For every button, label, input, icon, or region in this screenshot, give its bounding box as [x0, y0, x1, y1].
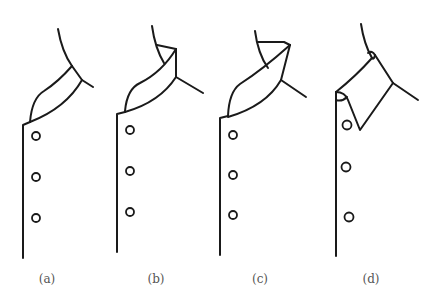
collar-inner-edge-b — [125, 77, 176, 112]
collar-band-arc-d — [336, 97, 347, 101]
button-b-3 — [126, 208, 134, 216]
button-a-2 — [32, 173, 40, 181]
collar-panel-d — [336, 24, 418, 256]
collar-band-edge-d — [336, 58, 372, 92]
caption-d: (d) — [362, 272, 379, 286]
shoulder-line-b — [176, 77, 203, 93]
button-d-1 — [343, 121, 352, 130]
collar-panel-b — [117, 26, 203, 252]
button-a-1 — [32, 132, 40, 140]
collar-fold-top-b — [157, 45, 176, 49]
button-d-3 — [345, 213, 354, 222]
button-d-2 — [342, 163, 351, 172]
collar-panel-c — [220, 31, 306, 255]
neck-line-c — [255, 31, 268, 68]
collar-inner-edge-c — [228, 80, 281, 117]
placket-edge-c — [220, 116, 228, 255]
collar-diagram — [0, 0, 438, 302]
caption-c: (c) — [252, 272, 268, 286]
button-c-3 — [229, 211, 237, 219]
button-a-3 — [32, 214, 40, 222]
button-c-1 — [229, 131, 237, 139]
collar-outer-edge-a — [30, 66, 72, 122]
collar-panel-a — [23, 29, 93, 258]
collar-fold-top-c — [258, 42, 290, 45]
placket-edge-a — [23, 122, 30, 258]
collar-inner-edge-a — [30, 80, 82, 122]
placket-edge-b — [117, 112, 125, 252]
collar-top-edge-a — [72, 66, 93, 87]
collar-back-edge-d — [375, 55, 393, 83]
neck-line-a — [58, 29, 72, 66]
caption-a: (a) — [39, 272, 56, 286]
button-b-2 — [126, 167, 134, 175]
shoulder-line-c — [281, 80, 306, 97]
shoulder-line-d — [393, 83, 418, 100]
button-c-2 — [229, 171, 237, 179]
caption-b: (b) — [147, 272, 164, 286]
button-b-1 — [126, 126, 134, 134]
